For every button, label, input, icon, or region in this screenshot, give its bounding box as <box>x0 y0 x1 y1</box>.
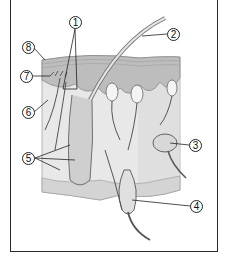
hair-follicle <box>68 95 92 185</box>
callout-8: 8 <box>22 41 35 54</box>
callout-1: 1 <box>69 16 82 29</box>
callout-5: 5 <box>22 152 35 165</box>
callout-4: 4 <box>190 200 203 213</box>
skin-cross-section-illustration <box>0 0 225 262</box>
callout-3: 3 <box>189 139 202 152</box>
callout-2: 2 <box>167 28 180 41</box>
callout-6: 6 <box>22 106 35 119</box>
callout-7: 7 <box>20 70 33 83</box>
